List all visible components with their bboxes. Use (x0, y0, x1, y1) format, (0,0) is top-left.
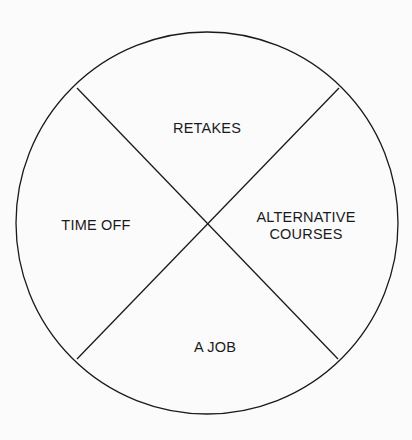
segment-label-line-1: ALTERNATIVE (256, 209, 355, 226)
segment-label-a-job: A JOB (194, 339, 236, 356)
segment-label-retakes: RETAKES (173, 120, 241, 137)
segment-label-alternative-courses: ALTERNATIVE COURSES (256, 209, 355, 243)
segment-label-line-2: COURSES (256, 226, 355, 243)
segment-label-time-off: TIME OFF (61, 217, 130, 234)
